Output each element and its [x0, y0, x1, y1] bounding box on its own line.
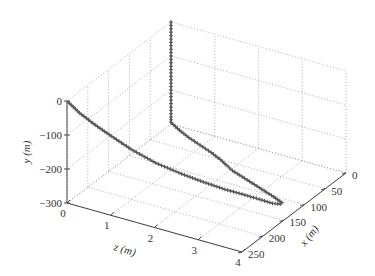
x-tick-label: 150: [290, 216, 307, 228]
z-tick: [111, 212, 114, 215]
z-tick-label: 1: [104, 219, 110, 231]
z-tick-label: 4: [235, 256, 241, 268]
gridline: [150, 140, 325, 189]
y-axis-label: y (m): [20, 140, 33, 164]
trajectory-line: [67, 22, 282, 204]
gridline: [67, 56, 171, 135]
x-tick-label: 100: [310, 201, 327, 213]
gridline: [67, 90, 171, 169]
y-tick-label: −200: [39, 163, 62, 175]
z-tick: [198, 237, 201, 240]
x-tick-label: 200: [269, 232, 286, 244]
y-tick-label: −300: [39, 197, 62, 209]
gridline: [155, 149, 259, 228]
x-tick: [238, 252, 242, 253]
y-tick-label: −100: [39, 129, 62, 141]
gridline: [111, 136, 215, 215]
z-tick-label: 0: [60, 207, 66, 219]
gridline: [88, 187, 263, 236]
gridline: [67, 22, 171, 101]
z-tick: [155, 225, 158, 228]
data-series: [67, 20, 284, 206]
x-tick-label: 250: [248, 248, 265, 260]
x-tick-label: 50: [331, 185, 343, 197]
z-tick-label: 3: [192, 244, 198, 256]
y-tick-label: 0: [57, 95, 63, 107]
gridline: [198, 161, 302, 240]
x-tick-label: 0: [352, 169, 358, 181]
z-tick-label: 2: [148, 232, 154, 244]
chart-3d-plot: −300−200−100001234050100150200250 y (m) …: [0, 0, 375, 276]
z-axis-label: z (m): [111, 240, 137, 259]
